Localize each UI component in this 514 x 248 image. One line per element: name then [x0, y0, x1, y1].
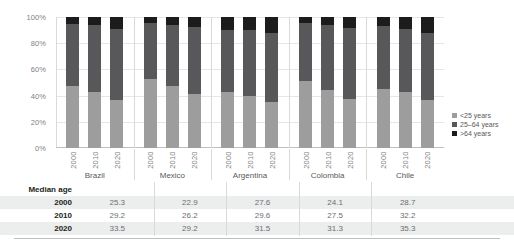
country-label-brazil: Brazil: [56, 171, 134, 180]
segment-under25: [144, 79, 157, 148]
bar-colombia-2000[interactable]: [299, 17, 312, 148]
table-cell-brazil-2000: 25.3: [81, 196, 154, 209]
table-cell-mexico-2010: 26.2: [154, 209, 227, 222]
year-cell: 2010: [399, 149, 412, 171]
x-group-chile: 200020102020Chile: [366, 149, 444, 182]
segment-25-64: [321, 25, 334, 91]
bar-brazil-2010[interactable]: [88, 17, 101, 148]
table-header-chile: [371, 183, 444, 196]
year-label-2020: 2020: [267, 151, 276, 169]
segment-over64: [377, 17, 390, 26]
year-cell: 2020: [343, 149, 356, 171]
year-labels: 200020102020: [289, 149, 367, 171]
bar-brazil-2020[interactable]: [110, 17, 123, 148]
year-labels: 200020102020: [56, 149, 134, 171]
bar-brazil-2000[interactable]: [66, 17, 79, 148]
bar-chile-2000[interactable]: [377, 17, 390, 148]
year-cell: 2020: [188, 149, 201, 171]
legend-label-old: >64 years: [460, 130, 491, 137]
bar-chile-2010[interactable]: [399, 17, 412, 148]
country-label-colombia: Colombia: [289, 171, 367, 180]
table-title: Median age: [0, 185, 81, 194]
table-cell-chile-2000: 28.7: [371, 196, 444, 209]
median-age-table: Median age 200025.322.927.624.128.720102…: [0, 183, 514, 235]
year-label-2000: 2000: [379, 151, 388, 169]
bar-mexico-2000[interactable]: [144, 17, 157, 148]
segment-under25: [188, 94, 201, 148]
year-cell: 2010: [321, 149, 334, 171]
table-cell-argentina-2020: 31.5: [226, 222, 299, 235]
year-label-2020: 2020: [112, 151, 121, 169]
segment-25-64: [265, 33, 278, 101]
year-cell: 2000: [144, 149, 157, 171]
year-cell: 2020: [421, 149, 434, 171]
segment-over64: [110, 17, 123, 29]
segment-over64: [88, 17, 101, 25]
segment-under25: [243, 96, 256, 148]
table-cell-chile-2020: 35.3: [371, 222, 444, 235]
bar-mexico-2010[interactable]: [166, 17, 179, 148]
legend-item-old[interactable]: >64 years: [452, 130, 512, 137]
x-axis-labels: 200020102020Brazil200020102020Mexico2000…: [56, 149, 444, 182]
x-group-colombia: 200020102020Colombia: [289, 149, 367, 182]
year-cell: 2020: [265, 149, 278, 171]
segment-25-64: [221, 30, 234, 92]
segment-25-64: [66, 24, 79, 86]
bar-group-chile: [366, 17, 444, 148]
bar-group-mexico: [134, 17, 212, 148]
segment-25-64: [243, 30, 256, 95]
table-cell-brazil-2010: 29.2: [81, 209, 154, 222]
segment-over64: [399, 17, 412, 29]
table-row-cells: 33.529.231.531.335.3: [81, 222, 444, 235]
bar-argentina-2010[interactable]: [243, 17, 256, 148]
table-row-cells: 25.322.927.624.128.7: [81, 196, 444, 209]
year-labels: 200020102020: [134, 149, 212, 171]
year-label-2010: 2010: [323, 151, 332, 169]
legend: <25 years 25–64 years >64 years: [452, 112, 512, 139]
bottom-divider: [14, 238, 500, 239]
year-label-2010: 2010: [401, 151, 410, 169]
y-tick-0: 0%: [35, 144, 46, 153]
bar-argentina-2000[interactable]: [221, 17, 234, 148]
segment-25-64: [343, 28, 356, 99]
segment-25-64: [399, 29, 412, 93]
segment-over64: [166, 17, 179, 25]
table-row-label-2000: 2000: [0, 198, 81, 207]
segment-25-64: [421, 33, 434, 100]
table-row: 202033.529.231.531.335.3: [0, 222, 514, 235]
table-header-row: Median age: [0, 183, 514, 196]
segment-over64: [188, 17, 201, 27]
table-cell-colombia-2000: 24.1: [299, 196, 372, 209]
country-label-mexico: Mexico: [134, 171, 212, 180]
legend-swatch-icon-working: [452, 122, 457, 127]
x-group-mexico: 200020102020Mexico: [134, 149, 212, 182]
table-cell-argentina-2010: 29.6: [226, 209, 299, 222]
year-cell: 2000: [221, 149, 234, 171]
bar-chile-2020[interactable]: [421, 17, 434, 148]
segment-under25: [66, 86, 79, 148]
table-row-cells: 29.226.229.627.532.2: [81, 209, 444, 222]
bar-group-argentina: [211, 17, 289, 148]
legend-item-working[interactable]: 25–64 years: [452, 121, 512, 128]
bar-colombia-2020[interactable]: [343, 17, 356, 148]
table-header-argentina: [226, 183, 299, 196]
year-label-2010: 2010: [90, 151, 99, 169]
table-cell-chile-2010: 32.2: [371, 209, 444, 222]
legend-item-young[interactable]: <25 years: [452, 112, 512, 119]
segment-under25: [377, 89, 390, 148]
bar-argentina-2020[interactable]: [265, 17, 278, 148]
year-label-2000: 2000: [68, 151, 77, 169]
legend-label-young: <25 years: [460, 112, 491, 119]
y-tick-80: 80%: [31, 39, 46, 48]
bar-colombia-2010[interactable]: [321, 17, 334, 148]
segment-over64: [66, 17, 79, 24]
segment-over64: [243, 17, 256, 30]
segment-under25: [321, 90, 334, 148]
year-label-2010: 2010: [168, 151, 177, 169]
table-cell-mexico-2000: 22.9: [154, 196, 227, 209]
year-label-2000: 2000: [223, 151, 232, 169]
table-cell-mexico-2020: 29.2: [154, 222, 227, 235]
segment-25-64: [88, 25, 101, 92]
table-cell-colombia-2010: 27.5: [299, 209, 372, 222]
bar-mexico-2020[interactable]: [188, 17, 201, 148]
